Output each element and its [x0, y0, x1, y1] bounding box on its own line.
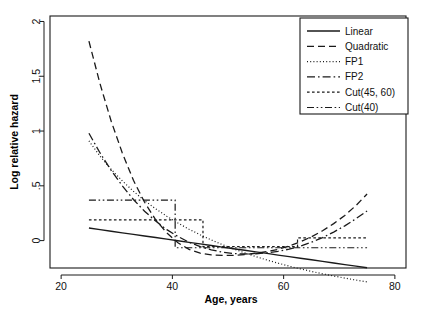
x-tick-label: 20 [55, 280, 67, 292]
legend-label-6: Cut(40) [345, 102, 378, 113]
chart-canvas: 0.511.52 20406080 LinearQuadraticFP1FP2C… [0, 0, 426, 318]
x-axis: 20406080 [55, 275, 401, 292]
y-tick-label: 0 [30, 238, 42, 244]
x-tick-label: 60 [278, 280, 290, 292]
legend-label-1: Linear [345, 26, 373, 37]
legend-label-4: FP2 [345, 71, 364, 82]
curve-fp1 [89, 141, 367, 282]
y-tick-label: 2 [30, 18, 42, 24]
x-tick-label: 80 [389, 280, 401, 292]
y-tick-label: .5 [30, 181, 42, 190]
curve-cut-45-60 [89, 220, 367, 247]
legend-label-5: Cut(45, 60) [345, 87, 395, 98]
curve-fp2 [89, 133, 367, 254]
legend-label-2: Quadratic [345, 41, 388, 52]
y-axis: 0.511.52 [30, 18, 44, 243]
y-axis-title: Log relative hazard [8, 94, 20, 190]
chart-figure: 0.511.52 20406080 LinearQuadraticFP1FP2C… [0, 0, 426, 318]
x-axis-title: Age, years [204, 293, 257, 305]
y-tick-label: 1.5 [30, 69, 42, 84]
y-tick-label: 1 [30, 128, 42, 134]
chart-legend: LinearQuadraticFP1FP2Cut(45, 60)Cut(40) [300, 18, 408, 114]
legend-label-3: FP1 [345, 56, 364, 67]
curve-cut-40 [89, 200, 367, 248]
x-tick-label: 40 [167, 280, 179, 292]
